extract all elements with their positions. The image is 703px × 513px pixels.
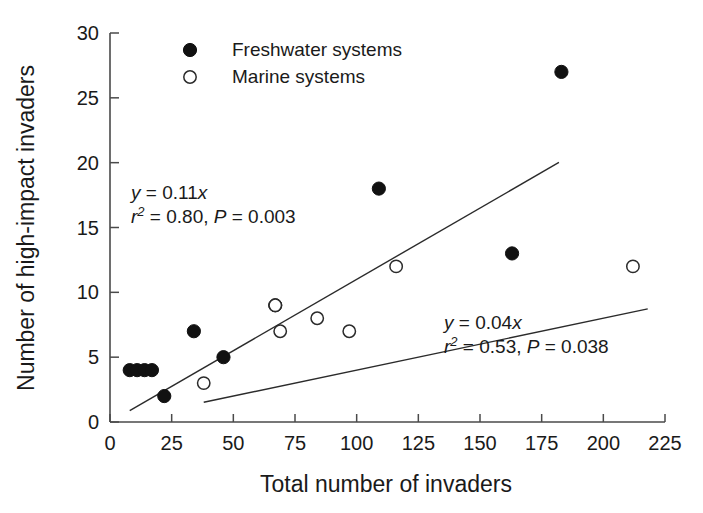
- x-tick-label: 175: [525, 432, 558, 454]
- annot-mar-r2-val: = 0.53,: [458, 336, 527, 357]
- data-point-marine: [269, 299, 281, 311]
- data-point-freshwater: [555, 65, 568, 78]
- y-tick-label: 5: [88, 346, 99, 368]
- legend-marker-marine: [184, 71, 196, 83]
- x-tick-label: 50: [222, 432, 244, 454]
- data-point-marine: [311, 312, 323, 324]
- annotation-freshwater-line2: r2 = 0.80, P = 0.003: [131, 204, 296, 227]
- legend: Freshwater systemsMarine systems: [183, 39, 402, 87]
- data-point-freshwater: [372, 182, 385, 195]
- x-tick-label: 75: [284, 432, 306, 454]
- annot-fw-x-var: x: [197, 182, 209, 203]
- data-point-marine: [390, 260, 402, 272]
- y-tick-label: 25: [77, 87, 99, 109]
- annot-fw-r2-val: = 0.80,: [145, 206, 214, 227]
- data-point-marine: [198, 377, 210, 389]
- legend-label: Marine systems: [232, 66, 365, 87]
- x-tick-label: 225: [648, 432, 681, 454]
- data-point-marine: [627, 260, 639, 272]
- annotation-freshwater-line1: y = 0.11x: [129, 182, 209, 203]
- y-tick-label: 0: [88, 411, 99, 433]
- x-tick-label: 100: [340, 432, 373, 454]
- annot-mar-p-val: = 0.038: [539, 336, 608, 357]
- annot-fw-p-var: P: [214, 206, 227, 227]
- data-point-freshwater: [217, 351, 230, 364]
- annot-mar-eq: = 0.04: [454, 312, 513, 333]
- y-axis-title: Number of high-impact invaders: [13, 65, 39, 391]
- annotation-marine-line1: y = 0.04x: [442, 312, 523, 333]
- data-point-marine: [274, 325, 286, 337]
- legend-label: Freshwater systems: [232, 39, 402, 60]
- legend-marker-freshwater: [183, 43, 196, 56]
- annotation-freshwater: y = 0.11x r2 = 0.80, P = 0.003: [129, 182, 296, 227]
- scatter-plot: 0255075100125150175200225051015202530 Fr…: [0, 0, 703, 513]
- x-axis-title: Total number of invaders: [260, 471, 512, 497]
- x-tick-label: 125: [402, 432, 435, 454]
- y-tick-label: 20: [77, 152, 99, 174]
- x-tick-label: 25: [161, 432, 183, 454]
- x-tick-label: 200: [587, 432, 620, 454]
- x-tick-label: 150: [463, 432, 496, 454]
- annotation-marine-line2: r2 = 0.53, P = 0.038: [444, 334, 609, 357]
- annot-fw-eq: = 0.11: [141, 182, 198, 203]
- y-tick-label: 30: [77, 22, 99, 44]
- chart-page: 0255075100125150175200225051015202530 Fr…: [0, 0, 703, 513]
- regression-lines: [130, 162, 648, 410]
- annot-mar-x-var: x: [511, 312, 523, 333]
- x-tick-label: 0: [104, 432, 115, 454]
- data-point-marine: [343, 325, 355, 337]
- y-tick-label: 10: [77, 281, 99, 303]
- data-point-freshwater: [187, 325, 200, 338]
- annot-fw-p-val: = 0.003: [226, 206, 295, 227]
- annot-mar-p-var: P: [527, 336, 540, 357]
- data-point-freshwater: [158, 389, 171, 402]
- y-tick-label: 15: [77, 217, 99, 239]
- data-point-freshwater: [505, 247, 518, 260]
- data-point-freshwater: [145, 364, 158, 377]
